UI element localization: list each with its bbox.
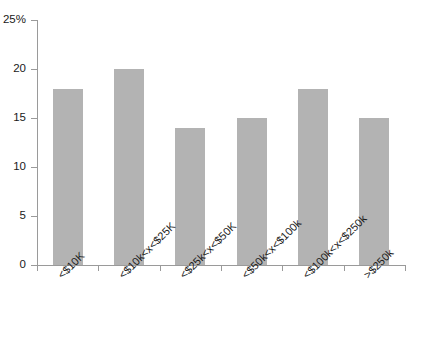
y-axis-tick-label: 25% <box>0 14 26 26</box>
bar <box>359 118 389 265</box>
x-axis-tick <box>221 266 222 271</box>
bar <box>298 89 328 265</box>
bar-chart: 0510152025% <$10K<$10k<x<$25K<$25k<x<$50… <box>0 0 434 344</box>
x-axis-tick <box>98 266 99 271</box>
bar <box>175 128 205 265</box>
bar <box>53 89 83 265</box>
bar <box>237 118 267 265</box>
y-axis-tick-label: 5 <box>0 210 26 222</box>
y-axis-tick-label: 20 <box>0 63 26 75</box>
bar <box>114 69 144 265</box>
y-axis-tick-label: 0 <box>0 259 26 271</box>
y-axis-tick-label: 15 <box>0 112 26 124</box>
x-axis-tick <box>405 266 406 271</box>
y-axis-tick-label: 10 <box>0 161 26 173</box>
x-axis-tick <box>160 266 161 271</box>
x-axis-tick <box>37 266 38 271</box>
x-axis-tick <box>282 266 283 271</box>
x-axis-tick <box>344 266 345 271</box>
